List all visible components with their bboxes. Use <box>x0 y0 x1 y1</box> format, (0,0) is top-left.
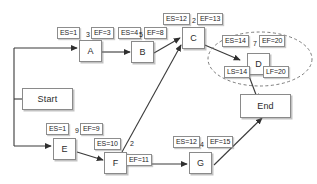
label-e-early-finish: EF=9 <box>80 123 103 135</box>
node-start[interactable]: Start <box>22 88 73 110</box>
label-c-early-finish: EF=13 <box>197 13 223 25</box>
label-g-early-start: ES=12 <box>173 136 200 148</box>
edge-e-to-f <box>77 152 103 160</box>
label-d-duration: 7 <box>253 40 257 48</box>
label-g-duration: 4 <box>200 141 204 149</box>
label-b-duration: 5 <box>139 31 143 39</box>
node-f[interactable]: F <box>104 152 127 174</box>
label-f-duration: 2 <box>130 140 134 148</box>
node-a-label: A <box>87 46 93 56</box>
label-b-early-finish: EF=8 <box>144 27 167 39</box>
node-g-label: G <box>197 158 204 168</box>
label-f-early-start: ES=10 <box>94 138 121 150</box>
network-diagram-canvas: Start A B C D E F G End ES=1 3 EF=3 ES=4… <box>0 0 317 184</box>
node-c[interactable]: C <box>182 27 205 49</box>
label-a-duration: 3 <box>86 31 90 39</box>
label-d-early-finish: EF=20 <box>259 35 285 47</box>
label-f-early-finish: EF=11 <box>126 154 152 166</box>
node-g[interactable]: G <box>189 152 212 174</box>
label-a-early-finish: EF=3 <box>91 27 114 39</box>
node-start-label: Start <box>37 94 57 104</box>
label-g-early-finish: EF=15 <box>207 136 233 148</box>
label-b-early-start: ES=4 <box>118 27 141 39</box>
label-e-early-start: ES=1 <box>46 123 69 135</box>
node-end-label: End <box>257 101 274 111</box>
label-c-early-start: ES=12 <box>163 13 190 25</box>
node-d-label: D <box>255 59 262 69</box>
edge-b-to-c <box>154 38 180 53</box>
node-e-label: E <box>61 144 67 154</box>
label-d-late-finish: LF=20 <box>263 66 289 78</box>
node-e[interactable]: E <box>53 138 76 160</box>
node-b[interactable]: B <box>131 41 154 63</box>
node-b-label: B <box>139 47 145 57</box>
node-c-label: C <box>190 33 197 43</box>
node-end[interactable]: End <box>240 94 291 118</box>
label-e-duration: 9 <box>75 127 79 135</box>
label-a-early-start: ES=1 <box>57 27 80 39</box>
node-f-label: F <box>113 158 119 168</box>
label-c-duration: 2 <box>192 17 196 25</box>
label-d-early-start: ES=14 <box>222 35 249 47</box>
label-d-late-start: LS=14 <box>224 66 250 78</box>
node-a[interactable]: A <box>79 40 102 62</box>
